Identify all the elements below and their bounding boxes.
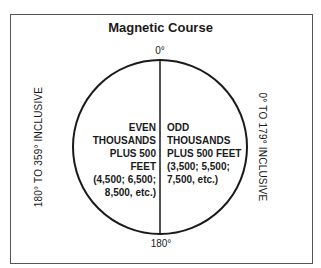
text-line: THOUSANDS (93, 134, 156, 147)
diagram-title: Magnetic Course (0, 20, 321, 35)
label-east-range: 0° TO 179° INCLUSIVE (257, 93, 268, 202)
text-line: PLUS 500 (93, 147, 156, 160)
even-thousands-text: EVEN THOUSANDS PLUS 500 FEET (4,500; 6,5… (93, 121, 156, 199)
text-line: EVEN (93, 121, 156, 134)
text-line: (4,500; 6,500; (93, 173, 156, 186)
text-line: (3,500; 5,500; (167, 160, 241, 173)
text-line: ODD (167, 121, 241, 134)
label-180-degrees: 180° (141, 238, 181, 249)
label-0-degrees: 0° (140, 45, 180, 56)
text-line: FEET (93, 160, 156, 173)
compass-circle-graphic (0, 0, 321, 268)
text-line: THOUSANDS (167, 134, 241, 147)
odd-thousands-text: ODD THOUSANDS PLUS 500 FEET (3,500; 5,50… (167, 121, 241, 186)
text-line: PLUS 500 FEET (167, 147, 241, 160)
text-line: 8,500, etc.) (93, 186, 156, 199)
label-west-range: 180° TO 359° INCLUSIVE (33, 87, 44, 207)
text-line: 7,500, etc.) (167, 173, 241, 186)
